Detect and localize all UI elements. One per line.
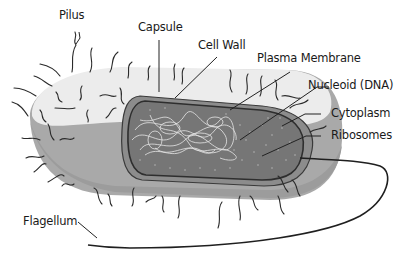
label-nucleoid: Nucleoid (DNA) (308, 78, 393, 92)
pilus-leader (76, 32, 80, 44)
flagellum-leader (78, 222, 97, 238)
label-pilus: Pilus (59, 8, 84, 22)
cytoplasm-region (128, 101, 304, 180)
label-cytoplasm: Cytoplasm (331, 106, 390, 120)
label-capsule: Capsule (138, 20, 183, 34)
label-cell-wall: Cell Wall (198, 38, 245, 52)
bacterial-cell-diagram: Pilus Capsule Cell Wall Plasma Membrane … (0, 0, 401, 264)
label-plasma-membrane: Plasma Membrane (257, 51, 361, 65)
label-ribosomes: Ribosomes (331, 128, 392, 142)
label-flagellum: Flagellum (23, 214, 77, 228)
